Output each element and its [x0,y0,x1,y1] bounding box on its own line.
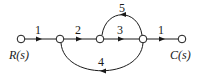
arrow-icon [36,37,42,42]
gain-label: 3 [117,23,123,37]
arrow-icon [76,37,82,42]
output-label: C(s) [170,48,191,62]
signal-flow-graph: 1 2 3 1 5 4 R(s) C(s) [0,0,199,77]
arrow-icon [100,69,106,74]
gain-label: 5 [119,1,125,15]
input-label: R(s) [8,48,29,62]
node-r [17,35,25,43]
node-3 [96,35,104,43]
gain-label: 2 [75,23,81,37]
arrow-icon [159,37,165,42]
node-2 [56,35,64,43]
arrow-icon [118,37,124,42]
gain-label: 4 [98,55,104,69]
gain-label: 1 [158,23,164,37]
node-4 [139,35,147,43]
gain-label: 1 [35,23,41,37]
node-c [178,35,186,43]
